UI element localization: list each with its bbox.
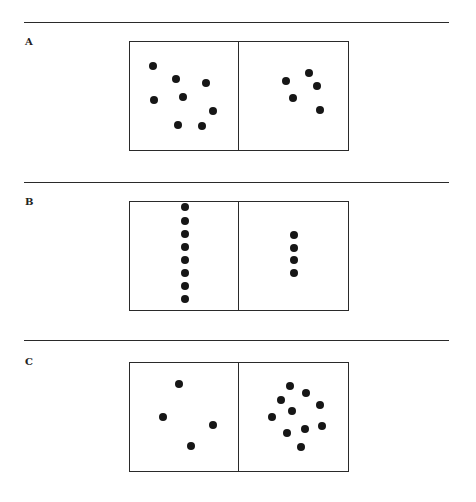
dot-c-left [187, 442, 195, 450]
pair-divider [238, 363, 239, 471]
dot-b-left [181, 256, 189, 264]
dot-a-left [172, 75, 180, 83]
dot-a-left [209, 107, 217, 115]
dot-c-right [316, 401, 324, 409]
dot-c-right [283, 429, 291, 437]
dot-a-right [313, 82, 321, 90]
dot-b-left [181, 269, 189, 277]
dot-a-left [150, 96, 158, 104]
dot-c-left [209, 421, 217, 429]
dot-a-right [282, 77, 290, 85]
dot-c-right [297, 443, 305, 451]
dot-a-left [149, 62, 157, 70]
dot-a-left [202, 79, 210, 87]
dot-b-left [181, 282, 189, 290]
dot-b-left [181, 295, 189, 303]
dot-a-left [174, 121, 182, 129]
pair-divider [238, 202, 239, 310]
dot-b-left [181, 203, 189, 211]
dot-c-right [318, 422, 326, 430]
separator-rule-c [24, 340, 449, 341]
dot-a-left [198, 122, 206, 130]
dot-a-right [289, 94, 297, 102]
dot-c-right [286, 382, 294, 390]
pair-divider [238, 42, 239, 150]
dot-a-left [179, 93, 187, 101]
dot-a-right [305, 69, 313, 77]
dot-b-right [290, 244, 298, 252]
dot-b-right [290, 231, 298, 239]
dot-b-left [181, 243, 189, 251]
dot-c-right [268, 413, 276, 421]
dot-c-left [175, 380, 183, 388]
panel-label-b: B [25, 196, 33, 207]
separator-rule-a [24, 22, 449, 23]
panel-label-a: A [25, 36, 33, 47]
dot-c-right [301, 425, 309, 433]
dot-b-right [290, 256, 298, 264]
dot-b-right [290, 269, 298, 277]
dot-b-left [181, 230, 189, 238]
stimulus-pair-b [129, 201, 349, 311]
dot-c-right [288, 407, 296, 415]
dot-c-left [159, 413, 167, 421]
dot-c-right [277, 396, 285, 404]
dot-a-right [316, 106, 324, 114]
dot-b-left [181, 217, 189, 225]
panel-label-c: C [25, 356, 33, 367]
separator-rule-b [24, 182, 449, 183]
dot-c-right [302, 389, 310, 397]
stimulus-pair-a [129, 41, 349, 151]
